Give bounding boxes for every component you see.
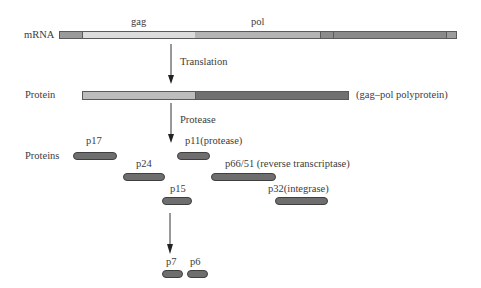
mrna-row-label: mRNA [24,29,54,41]
mrna-3prime-segment [446,31,457,39]
polyprotein-pol-segment [195,91,349,100]
p15-protein-pill [162,197,192,205]
pol-gene-label: pol [251,16,264,28]
protease-step-label: Protease [180,114,216,126]
polyprotein-gag-segment [82,91,196,100]
p15-cleavage-arrow-icon [167,213,173,254]
p17-label: p17 [86,135,102,147]
polyprotein-note: (gag–pol polyprotein) [356,89,448,101]
p32-label: p32(integrase) [268,183,329,195]
p7-label: p7 [166,256,177,268]
p15-label: p15 [170,183,186,195]
translation-arrow-icon [168,44,174,84]
p32-protein-pill [275,197,328,205]
mrna-pol-segment-b [320,31,334,39]
p17-protein-pill [73,152,117,160]
p11-label: p11(protease) [185,135,242,147]
p6-label: p6 [190,256,201,268]
translation-step-label: Translation [180,56,227,68]
mrna-5prime-segment [59,31,83,39]
proteins-row-label: Proteins [25,150,59,162]
p24-label: p24 [136,158,152,170]
mrna-pol-segment-a [195,31,321,39]
p24-protein-pill [123,173,165,181]
p7-protein-pill [162,270,183,278]
protein-row-label: Protein [25,89,55,101]
p66-51-protein-pill [211,173,276,181]
mrna-gag-segment [82,31,196,39]
gag-pol-processing-diagram: mRNA Protein Proteins gag pol Translatio… [0,0,481,288]
protease-arrow-icon [168,103,174,143]
p6-protein-pill [187,270,208,278]
gag-gene-label: gag [131,16,146,28]
mrna-pol-segment-c [333,31,447,39]
p11-protein-pill [177,152,210,160]
p66-51-label: p66/51 (reverse transcriptase) [225,158,350,170]
